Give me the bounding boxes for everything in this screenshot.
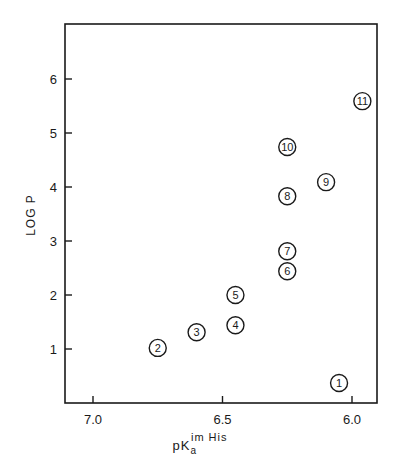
point-label: 9 [323,176,329,188]
data-point-4: 4 [227,317,244,334]
data-point-1: 1 [331,375,348,392]
data-point-8: 8 [279,188,296,205]
y-tick-label: 1 [50,342,57,357]
data-point-7: 7 [279,243,296,260]
y-tick-label: 3 [50,234,57,249]
x-axis-ticks: 7.06.56.0 [84,396,361,427]
data-point-9: 9 [318,174,335,191]
point-label: 1 [336,377,342,389]
data-point-2: 2 [149,339,166,356]
data-point-11: 11 [354,93,371,110]
data-point-6: 6 [279,263,296,280]
y-tick-label: 5 [50,126,57,141]
data-point-3: 3 [188,324,205,341]
point-label: 2 [155,342,161,354]
point-label: 10 [281,141,293,153]
data-point-5: 5 [227,287,244,304]
y-tick-label: 2 [50,288,57,303]
point-label: 7 [284,245,290,257]
scatter-chart: 7.06.56.0 123456 1234567891011 LOG P pKa… [0,0,399,467]
point-label: 5 [232,289,238,301]
point-label: 3 [194,326,200,338]
x-axis-label: pKaim His [172,431,227,456]
data-points: 1234567891011 [149,93,371,392]
y-axis-label: LOG P [24,194,38,236]
x-axis-label-main: pK [172,438,190,453]
data-point-10: 10 [279,139,296,156]
point-label: 4 [232,319,238,331]
x-tick-label: 7.0 [84,412,102,427]
x-tick-label: 6.5 [213,412,231,427]
point-label: 6 [284,265,290,277]
x-axis-label-sup: im His [191,431,228,443]
y-tick-label: 4 [50,180,57,195]
y-axis-ticks: 123456 [50,72,72,357]
point-label: 11 [357,95,368,107]
x-axis-label-sub: a [190,445,197,456]
plot-frame [65,24,377,403]
x-tick-label: 6.0 [343,412,361,427]
point-label: 8 [284,190,290,202]
y-tick-label: 6 [50,72,57,87]
